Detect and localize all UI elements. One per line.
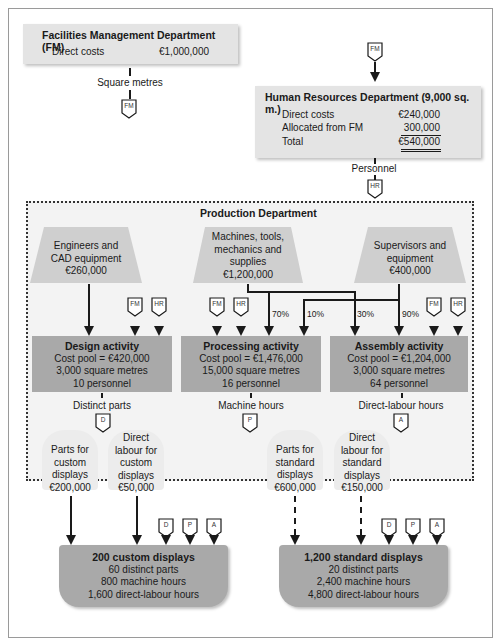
labour-standard-arrow-icon <box>356 535 366 545</box>
processing-activity-title: Processing activity <box>181 340 321 353</box>
assembly-fm-arrow-icon <box>429 326 439 336</box>
custom-d-arrow-icon <box>161 535 171 545</box>
fm-tag-icon: FM <box>121 99 137 119</box>
direct-cost-labour-custom: Direct labour for custom displays €50,00… <box>108 430 164 490</box>
processing-driver-connector <box>250 393 252 398</box>
standard-p-arrow-icon <box>408 535 418 545</box>
supervisors-to-processing-pct: 10% <box>307 308 324 321</box>
fm-department-box: Facilities Management Department (FM) Di… <box>23 24 238 64</box>
supervisors-drop-line <box>398 284 400 326</box>
standard-d-arrow-icon <box>384 535 394 545</box>
custom-p-arrow-icon <box>185 535 195 545</box>
supervisors-horizontal-line <box>303 299 399 301</box>
design-hr-tag-icon: HR <box>151 297 167 317</box>
supervisors-to-processing-line <box>303 299 305 326</box>
supervisors-to-processing-arrow-icon <box>299 326 309 336</box>
machines-to-assembly-arrow-icon <box>350 326 360 336</box>
processing-driver-label: Machine hours <box>205 400 297 413</box>
design-driver-label: Distinct parts <box>56 400 148 413</box>
processing-hr-arrow-icon <box>236 326 246 336</box>
fm-direct-costs-label: Direct costs <box>52 46 104 59</box>
resource-engineers-text: Engineers and CAD equipment €260,000 <box>30 240 142 278</box>
production-title: Production Department <box>200 207 317 219</box>
standard-displays-product: 1,200 standard displays 20 distinct part… <box>279 545 448 607</box>
custom-a-arrow-icon <box>209 535 219 545</box>
processing-fm-arrow-icon <box>212 326 222 336</box>
custom-displays-title: 200 custom displays <box>59 551 228 564</box>
assembly-driver-label: Direct-labour hours <box>350 400 452 413</box>
fm-to-hr-arrow-icon <box>370 72 380 82</box>
labour-custom-arrow-icon <box>132 535 142 545</box>
hr-total-double-rule <box>401 149 441 152</box>
hr-row-label: Direct costs <box>282 109 334 122</box>
machines-to-assembly-line <box>354 291 356 326</box>
fm-direct-costs-value: €1,000,000 <box>159 46 209 59</box>
assembly-fm-tag-icon: FM <box>426 297 442 317</box>
fm-connector-2 <box>129 90 131 99</box>
parts-custom-to-product-line <box>70 496 72 535</box>
labour-custom-to-product-line <box>136 496 138 535</box>
processing-hr-tag-icon: HR <box>233 297 249 317</box>
design-driver-tag-icon: D <box>95 413 111 433</box>
assembly-driver-connector <box>401 393 403 398</box>
hr-row-label: Total <box>282 136 303 149</box>
hr-department-box: Human Resources Department (9,000 sq. m.… <box>255 86 481 158</box>
supervisors-to-assembly-pct: 90% <box>402 308 419 321</box>
design-activity-title: Design activity <box>32 340 172 353</box>
processing-activity-box: Processing activity Cost pool = €1,476,0… <box>181 336 321 392</box>
design-hr-arrow-icon <box>154 326 164 336</box>
design-activity-box: Design activity Cost pool = €420,000 3,0… <box>32 336 172 392</box>
fm-driver-label: Square metres <box>90 77 170 90</box>
parts-standard-to-product-line <box>294 496 296 535</box>
supervisors-to-assembly-arrow-icon <box>394 326 404 336</box>
assembly-activity-box: Assembly activity Cost pool = €1,204,000… <box>330 336 468 392</box>
hr-row-value: 300,000 <box>396 122 440 135</box>
assembly-activity-title: Assembly activity <box>330 340 468 353</box>
fm-connector <box>129 68 131 76</box>
machines-to-assembly-pct: 30% <box>357 308 374 321</box>
standard-displays-title: 1,200 standard displays <box>279 551 448 564</box>
assembly-hr-arrow-icon <box>453 326 463 336</box>
machines-to-processing-pct: 70% <box>272 308 289 321</box>
standard-a-arrow-icon <box>432 535 442 545</box>
parts-standard-arrow-icon <box>290 535 300 545</box>
design-fm-tag-icon: FM <box>127 297 143 317</box>
assembly-driver-tag-icon: A <box>393 413 409 433</box>
machines-to-processing-arrow-icon <box>264 326 274 336</box>
hr-row-value: €540,000 <box>396 136 440 149</box>
design-driver-connector <box>101 393 103 398</box>
hr-incoming-fm-tag-icon: FM <box>367 42 383 62</box>
processing-fm-tag-icon: FM <box>209 297 225 317</box>
parts-custom-arrow-icon <box>66 535 76 545</box>
hr-driver-label: Personnel <box>344 163 404 176</box>
engineers-to-design-line <box>88 284 90 326</box>
direct-cost-labour-standard: Direct labour for standard displays €150… <box>334 430 390 490</box>
assembly-hr-tag-icon: HR <box>450 297 466 317</box>
labour-standard-to-product-line <box>360 496 362 535</box>
hr-row-value: €240,000 <box>396 109 440 122</box>
resource-supervisors-text: Supervisors and equipment €400,000 <box>354 240 466 278</box>
engineers-to-design-arrow-icon <box>84 326 94 336</box>
hr-tag-icon: HR <box>367 179 383 199</box>
resource-machines-text: Machines, tools, mechanics and supplies … <box>193 231 303 281</box>
processing-driver-tag-icon: P <box>242 413 258 433</box>
hr-row-label: Allocated from FM <box>282 122 363 135</box>
direct-cost-parts-standard: Parts for standard displays €600,000 <box>267 430 323 490</box>
machines-to-processing-line <box>268 291 270 326</box>
fm-to-hr-line <box>374 62 376 72</box>
machines-horizontal-line <box>247 291 355 293</box>
custom-displays-product: 200 custom displays 60 distinct parts 80… <box>59 545 228 607</box>
direct-cost-parts-custom: Parts for custom displays €200,000 <box>42 430 98 490</box>
design-fm-arrow-icon <box>130 326 140 336</box>
